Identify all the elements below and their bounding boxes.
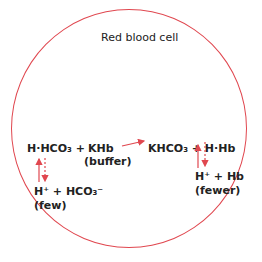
- right-equilibrium-arrows-icon: [198, 142, 205, 168]
- reaction-arrows: [0, 0, 262, 262]
- forward-reaction-arrow-icon: [122, 141, 144, 146]
- left-equilibrium-arrows-icon: [39, 158, 45, 182]
